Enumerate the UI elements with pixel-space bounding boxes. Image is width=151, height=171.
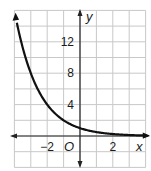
exponential-graph: −224812 y x O	[0, 0, 151, 171]
y-tick-label: 4	[67, 98, 74, 112]
y-axis-label: y	[85, 9, 94, 24]
x-axis-label: x	[135, 139, 143, 154]
x-tick-label: −2	[40, 140, 54, 154]
y-tick-label: 12	[61, 35, 75, 49]
x-tick-label: 2	[109, 140, 116, 154]
curve-arrow-right-icon	[143, 132, 150, 138]
x-axis-left-arrow-icon	[10, 134, 17, 139]
origin-label: O	[64, 139, 74, 154]
curve-arrow-up-icon	[13, 13, 20, 21]
y-tick-label: 8	[67, 66, 74, 80]
